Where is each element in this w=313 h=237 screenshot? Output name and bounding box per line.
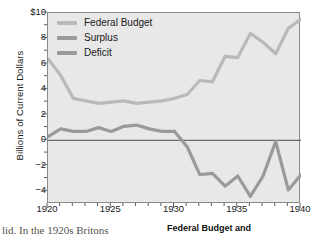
legend-swatch-icon — [57, 21, 77, 25]
legend-label: Federal Budget — [84, 18, 152, 28]
y-tick-label: 0 — [18, 134, 46, 144]
y-tick-label: $10 — [18, 7, 46, 17]
x-tick-label: 1935 — [226, 203, 247, 214]
x-tick-label: 1930 — [163, 203, 184, 214]
y-tick-label: 8 — [18, 32, 46, 42]
figure-chart: Billions of Current Dollars −4−202468$10… — [0, 0, 313, 237]
x-axis-tick-labels: 19201925193019351940 — [0, 203, 313, 223]
legend-label: Surplus — [84, 33, 118, 43]
chart-legend: Federal BudgetSurplusDeficit — [57, 16, 152, 61]
legend-item: Surplus — [57, 31, 152, 44]
x-tick-label: 1940 — [289, 203, 310, 214]
series-line — [175, 131, 302, 196]
y-tick-label: 2 — [18, 109, 46, 119]
y-tick-label: 6 — [18, 58, 46, 68]
legend-item: Federal Budget — [57, 16, 152, 29]
y-tick-label: −2 — [18, 160, 46, 170]
series-line — [48, 125, 175, 136]
legend-swatch-icon — [57, 51, 77, 55]
x-tick-label: 1925 — [100, 203, 121, 214]
x-tick-label: 1920 — [36, 203, 57, 214]
body-text-fragment: lid. In the 1920s Britons — [2, 224, 152, 236]
y-tick-label: −4 — [18, 185, 46, 195]
figure-caption-bold: Federal Budget and — [167, 223, 251, 233]
legend-label: Deficit — [84, 48, 112, 58]
legend-swatch-icon — [57, 36, 77, 40]
legend-item: Deficit — [57, 46, 152, 59]
y-tick-label: 4 — [18, 83, 46, 93]
y-axis-tick-labels: −4−202468$10 — [14, 0, 46, 212]
